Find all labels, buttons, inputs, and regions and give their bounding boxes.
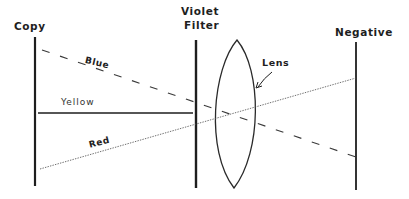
negative-label: Negative (335, 27, 393, 38)
lens-shape (215, 40, 255, 188)
copy-label: Copy (14, 21, 46, 32)
diagram-canvas: Copy Violet Filter Negative Lens Blue Ye… (0, 0, 409, 199)
lens-pointer-arrow (258, 72, 272, 87)
violet-filter-label-line1: Violet (181, 6, 219, 17)
red-ray (40, 78, 356, 169)
lens-label: Lens (262, 58, 289, 68)
violet-filter-label-line2: Filter (184, 20, 219, 31)
yellow-ray-label: Yellow (61, 98, 95, 107)
